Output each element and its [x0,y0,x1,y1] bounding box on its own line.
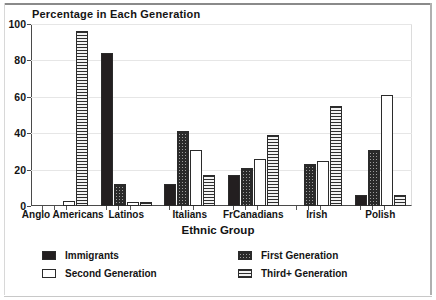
x-axis-label-anglo-americans: Anglo Americans [22,209,104,220]
figure-border-left [4,3,5,295]
bar-italians-third-generation [203,175,215,206]
x-axis-label-italians: Italians [173,209,207,220]
bar-polish-third-generation [394,195,406,206]
plot-area: 020406080100 [31,24,412,206]
bar-italians-immigrants [164,184,176,206]
legend-entry-third-generation: Third+ Generation [238,268,347,279]
bar-irish-third-generation [330,106,342,206]
y-tick-label: 100 [8,18,26,30]
x-tick-mark [169,206,170,210]
x-tick-mark [360,206,361,210]
y-tick-mark [27,206,31,207]
legend-label: Immigrants [65,250,119,261]
figure-border-bottom [4,296,432,297]
bar-italians-first-generation [177,131,189,206]
bar-irish-second-generation [317,161,329,207]
chart-title: Percentage in Each Generation [32,8,200,20]
figure-border-top [4,3,432,5]
bar-latinos-third-generation [140,202,152,206]
y-tick-mark [27,133,31,134]
legend-entry-first-generation: First Generation [238,250,338,261]
legend-swatch-solid-black [42,251,56,260]
legend-label: First Generation [261,250,338,261]
legend-swatch-white-empty [42,269,56,278]
bar-frcanadians-third-generation [267,135,279,206]
bar-latinos-first-generation [114,184,126,206]
legend-label: Second Generation [65,268,157,279]
bar-polish-first-generation [368,150,380,206]
bar-latinos-immigrants [101,53,113,206]
x-axis-label-latinos: Latinos [108,209,144,220]
gridline [31,24,412,25]
x-tick-mark [296,206,297,210]
legend-entry-immigrants: Immigrants [42,250,119,261]
y-tick-mark [27,97,31,98]
x-axis-label-polish: Polish [365,209,395,220]
bar-frcanadians-immigrants [228,175,240,206]
bar-polish-immigrants [355,195,367,206]
bar-anglo-americans-second-generation [63,201,75,206]
y-tick-mark [27,60,31,61]
y-tick-label: 40 [14,127,26,139]
chart-figure: Percentage in Each Generation 0204060801… [0,0,436,300]
bar-anglo-americans-third-generation [76,31,88,206]
x-axis-label-frcanadians: FrCanadians [223,209,284,220]
legend-swatch-horizontal-lines [238,269,252,278]
y-tick-label: 20 [14,164,26,176]
legend-entry-second-generation: Second Generation [42,268,157,279]
figure-border-right [430,3,432,295]
y-tick-mark [27,24,31,25]
bar-frcanadians-first-generation [241,168,253,206]
bar-latinos-second-generation [127,202,139,206]
legend-swatch-checkered [238,251,252,260]
legend-label: Third+ Generation [261,268,347,279]
bar-frcanadians-second-generation [254,159,266,206]
bar-polish-second-generation [381,95,393,206]
y-tick-label: 80 [14,54,26,66]
x-tick-mark [106,206,107,210]
chart-legend: ImmigrantsFirst GenerationSecond Generat… [42,250,394,290]
bar-italians-second-generation [190,150,202,206]
x-axis-title: Ethnic Group [0,224,436,236]
y-tick-label: 60 [14,91,26,103]
bar-irish-first-generation [304,164,316,206]
y-tick-mark [27,170,31,171]
x-axis-label-irish: Irish [306,209,327,220]
